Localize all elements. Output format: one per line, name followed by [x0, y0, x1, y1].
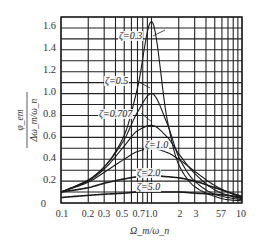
x-tick-0.5: 0.5	[116, 208, 129, 219]
x-tick-0.3: 0.3	[98, 208, 111, 219]
y-tick-0.2: 0.2	[32, 174, 56, 185]
y-axis-label: φ_em Δω_m/ω_n	[10, 85, 44, 155]
x-axis-label: Ω_m/ω_n	[130, 225, 169, 236]
x-tick-10: 10	[236, 208, 246, 219]
x-tick-0.1: 0.1	[56, 208, 69, 219]
annotation-zeta-0.707: ζ=0.707	[98, 109, 133, 119]
annotation-zeta-5.0: ζ=5.0	[136, 182, 161, 192]
y-tick-1.6: 1.6	[32, 20, 56, 31]
y-axis-label-denominator: Δω_m/ω_n	[29, 98, 39, 142]
y-tick-1.4: 1.4	[32, 42, 56, 53]
y-tick-0: 0	[22, 198, 46, 209]
y-tick-1.2: 1.2	[32, 64, 56, 75]
x-tick-5-7: 57	[216, 208, 226, 219]
x-tick-3: 3	[194, 208, 199, 219]
y-axis-label-numerator: φ_em	[15, 109, 25, 130]
x-tick-0.2: 0.2	[82, 208, 95, 219]
annotation-zeta-2.0: ζ=2.0	[136, 168, 161, 178]
annotation-zeta-0.5: ζ=0.5	[104, 76, 129, 86]
x-tick-2: 2	[178, 208, 183, 219]
x-tick-0.7-1.0: 0.71.0	[133, 208, 158, 219]
annotation-zeta-0.3: ζ=0.3	[118, 31, 143, 41]
annotation-zeta-1.0: ζ=1.0	[144, 140, 169, 150]
